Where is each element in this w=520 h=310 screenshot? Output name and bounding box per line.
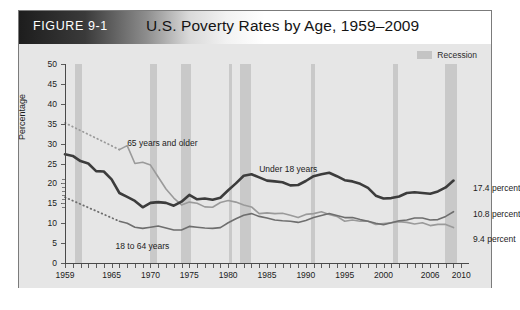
figure-header: FIGURE 9-1 U.S. Poverty Rates by Age, 19… xyxy=(19,11,491,44)
plot-panel: Recession Percentage 0510152025303540455… xyxy=(19,44,491,288)
series-label-under-18: Under 18 years xyxy=(259,164,317,174)
series-line xyxy=(65,154,454,207)
series-line xyxy=(119,146,453,228)
figure-title: U.S. Poverty Rates by Age, 1959–2009 xyxy=(146,17,419,35)
x-axis-line xyxy=(65,263,469,264)
series-lines-group xyxy=(19,44,493,288)
series-line-estimated xyxy=(65,123,119,150)
figure-frame: FIGURE 9-1 U.S. Poverty Rates by Age, 19… xyxy=(18,10,492,288)
series-label-18-to-64: 18 to 64 years xyxy=(116,241,170,251)
y-axis-line xyxy=(65,64,66,263)
series-label-65-and-older: 65 years and older xyxy=(127,138,197,148)
end-label-under-18: 17.4 percent xyxy=(473,183,520,193)
series-line-estimated xyxy=(65,197,119,221)
end-label-65-and-older: 9.4 percent xyxy=(473,234,516,244)
figure-number-label: FIGURE 9-1 xyxy=(33,19,108,33)
end-label-18-to-64: 10.8 percent xyxy=(473,209,520,219)
